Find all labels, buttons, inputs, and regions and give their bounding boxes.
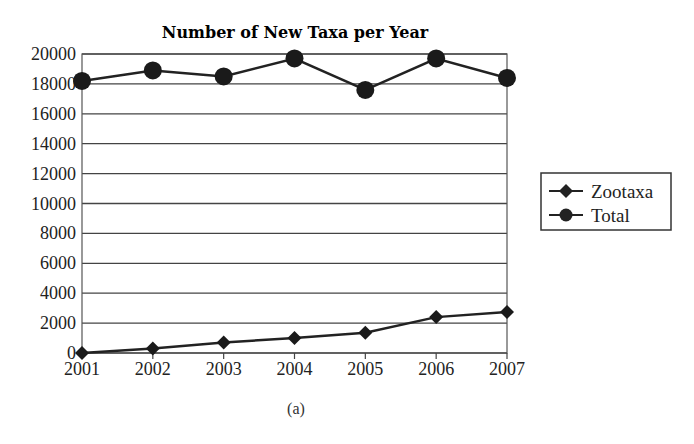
- y-tick-label: 4000: [40, 283, 76, 303]
- circle-marker-icon: [560, 209, 573, 222]
- legend-label-zootaxa: Zootaxa: [591, 181, 654, 202]
- y-tick-label: 10000: [31, 194, 76, 214]
- x-tick-label: 2002: [135, 359, 171, 379]
- diamond-marker-icon: [75, 346, 89, 360]
- y-tick-label: 20000: [31, 44, 76, 64]
- chart-title: Number of New Taxa per Year: [162, 23, 429, 42]
- y-tick-label: 8000: [40, 223, 76, 243]
- x-tick-label: 2004: [277, 359, 313, 379]
- y-tick-label: 14000: [31, 134, 76, 154]
- x-tick-label: 2005: [347, 359, 383, 379]
- diamond-marker-icon: [500, 305, 514, 319]
- figure-caption: (a): [287, 400, 305, 418]
- x-tick-label: 2007: [489, 359, 525, 379]
- circle-marker-icon: [73, 72, 91, 90]
- diamond-marker-icon: [358, 326, 372, 340]
- x-tick-label: 2003: [206, 359, 242, 379]
- circle-marker-icon: [498, 69, 516, 87]
- x-tick-label: 2006: [418, 359, 454, 379]
- diamond-marker-icon: [429, 310, 443, 324]
- y-tick-label: 18000: [31, 74, 76, 94]
- legend-label-total: Total: [591, 205, 630, 226]
- legend: Zootaxa Total: [541, 173, 671, 230]
- y-tick-label: 12000: [31, 164, 76, 184]
- line-chart: Number of New Taxa per Year 020004000600…: [0, 0, 694, 444]
- diamond-marker-icon: [288, 331, 302, 345]
- circle-marker-icon: [144, 61, 162, 79]
- x-tick-label: 2001: [64, 359, 100, 379]
- circle-marker-icon: [286, 49, 304, 67]
- y-tick-label: 2000: [40, 313, 76, 333]
- circle-marker-icon: [427, 49, 445, 67]
- x-axis-ticks: 2001200220032004200520062007: [64, 353, 525, 379]
- gridlines: [82, 54, 507, 353]
- data-series: [73, 49, 516, 360]
- y-tick-label: 16000: [31, 104, 76, 124]
- y-tick-label: 6000: [40, 253, 76, 273]
- circle-marker-icon: [356, 81, 374, 99]
- diamond-marker-icon: [217, 336, 231, 350]
- y-axis-ticks: 0200040006000800010000120001400016000180…: [31, 44, 76, 363]
- circle-marker-icon: [215, 67, 233, 85]
